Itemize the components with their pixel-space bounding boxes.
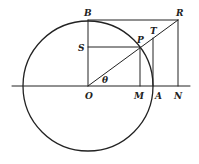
label-S: S <box>78 43 85 53</box>
label-O: O <box>85 91 93 101</box>
label-R: R <box>175 8 184 18</box>
label-P: P <box>136 35 144 45</box>
label-M: M <box>133 91 145 101</box>
label-A: A <box>154 91 162 101</box>
label-B: B <box>83 8 92 18</box>
label-T: T <box>150 26 158 36</box>
geometry-diagram: B R T S P θ O M A N <box>0 0 199 164</box>
label-N: N <box>173 91 183 101</box>
label-theta: θ <box>102 75 108 85</box>
